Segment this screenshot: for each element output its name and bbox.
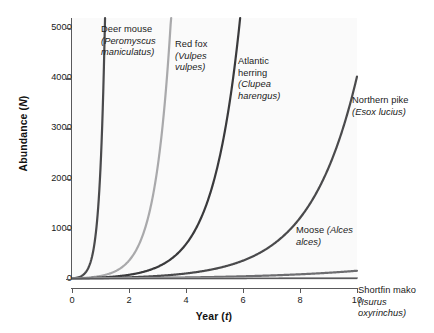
x-tick-mark xyxy=(186,288,187,293)
scientific-name: (Vulpes vulpes) xyxy=(175,51,207,73)
x-tick-mark xyxy=(300,288,301,293)
exponential-growth-chart: 010002000300040005000 0246810 Abundance … xyxy=(0,0,434,333)
scientific-name: (Isurus oxyrinchus) xyxy=(358,297,406,319)
y-tick-mark xyxy=(66,128,72,129)
series-label-northern-pike: Northern pike (Esox lucius) xyxy=(352,95,428,118)
x-tick-label: 2 xyxy=(116,295,142,305)
series-label-red-fox: Red fox (Vulpes vulpes) xyxy=(175,39,231,74)
y-tick-label: 1000 xyxy=(10,223,72,233)
x-tick-mark xyxy=(243,288,244,293)
scientific-name: (Peromyscus maniculatus) xyxy=(101,36,156,58)
y-axis-variable: N xyxy=(18,99,29,107)
y-axis-ticks: 010002000300040005000 xyxy=(0,0,72,333)
y-tick-label: 0 xyxy=(10,273,72,283)
x-tick-label: 4 xyxy=(173,295,199,305)
x-tick-mark xyxy=(129,288,130,293)
y-tick-mark xyxy=(66,279,72,280)
y-tick-label: 5000 xyxy=(10,22,72,32)
series-label-shortfin-mako: Shortfin mako (Isurus oxyrinchus) xyxy=(358,285,434,320)
scientific-name: (Esox lucius) xyxy=(352,107,406,117)
series-label-moose: Moose (Alces alces) xyxy=(296,225,354,248)
x-axis-title: Year (t) xyxy=(71,311,357,322)
x-tick-label: 6 xyxy=(230,295,256,305)
x-tick-mark xyxy=(72,288,73,293)
x-tick-rail xyxy=(71,288,357,289)
x-tick-label: 0 xyxy=(59,295,85,305)
y-axis-title: Abundance (N) xyxy=(18,74,29,194)
x-tick-label: 8 xyxy=(287,295,313,305)
series-label-deer-mouse: Deer mouse (Peromyscus maniculatus) xyxy=(101,24,179,59)
y-tick-mark xyxy=(66,78,72,79)
y-tick-mark xyxy=(66,28,72,29)
x-axis-line xyxy=(71,278,357,279)
y-tick-mark xyxy=(66,179,72,180)
scientific-name: (Alces alces) xyxy=(296,225,353,247)
y-tick-mark xyxy=(66,229,72,230)
series-label-atlantic-herring: Atlantic herring (Clupea harengus) xyxy=(238,56,300,102)
x-axis-variable: t xyxy=(225,311,229,322)
scientific-name: (Clupea harengus) xyxy=(238,79,280,101)
